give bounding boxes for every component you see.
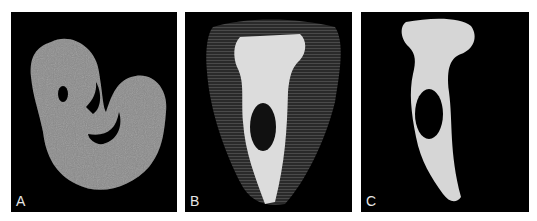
panel-b: B [185, 12, 352, 212]
volume-rendering-image [185, 12, 352, 212]
panel-a: A [11, 12, 177, 212]
panel-label-b: B [190, 194, 199, 208]
panel-label-a: A [16, 194, 25, 208]
surface-rendering-image [361, 12, 529, 212]
panel-label-c: C [366, 194, 376, 208]
panel-c: C [361, 12, 529, 212]
cochlea-slice-image [11, 12, 177, 212]
